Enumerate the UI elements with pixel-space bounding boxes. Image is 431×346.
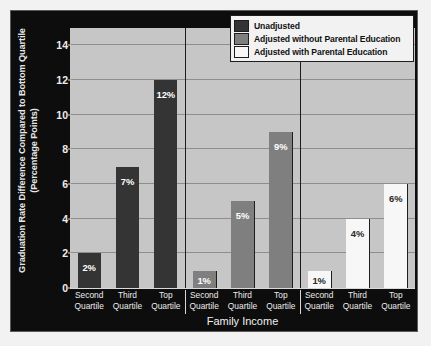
- y-axis-title: Graduation Rate Difference Compared to B…: [11, 11, 46, 289]
- x-axis-category-label: ThirdQuartile: [108, 290, 146, 311]
- legend-item: Unadjusted: [234, 19, 409, 32]
- x-axis-category-line1: Third: [118, 290, 137, 300]
- group-separator: [185, 28, 186, 288]
- bar-value-label: 2%: [72, 262, 107, 273]
- y-axis-tick-label: 0: [46, 282, 68, 294]
- y-axis-tick-label: 6: [46, 178, 68, 190]
- gridline: [70, 148, 415, 149]
- x-axis-group-separator: [300, 290, 301, 314]
- x-axis-category-labels: SecondQuartileThirdQuartileTopQuartileSe…: [70, 290, 415, 316]
- x-axis-category-label: TopQuartile: [262, 290, 300, 311]
- x-axis-line: [70, 288, 415, 289]
- bar-value-label: 9%: [263, 141, 298, 152]
- y-axis-tick-mark: [68, 253, 71, 254]
- legend-swatch: [234, 20, 249, 32]
- y-axis-tick-mark: [68, 80, 71, 81]
- bar-value-label: 1%: [302, 275, 337, 286]
- bar-value-label: 12%: [148, 89, 183, 100]
- x-axis-category-line2: Quartile: [262, 301, 300, 312]
- group-separator: [300, 28, 301, 288]
- x-axis-category-line2: Quartile: [223, 301, 261, 312]
- bar-value-label: 7%: [110, 176, 145, 187]
- y-axis-tick-mark: [68, 114, 71, 115]
- y-axis-title-line1: Graduation Rate Difference Compared to B…: [17, 28, 27, 273]
- x-axis-category-label: ThirdQuartile: [338, 290, 376, 311]
- x-axis-category-line1: Top: [389, 290, 403, 300]
- chart-legend: UnadjustedAdjusted without Parental Educ…: [230, 15, 414, 62]
- x-axis-category-label: SecondQuartile: [300, 290, 338, 311]
- bar: [269, 132, 293, 288]
- legend-label: Adjusted without Parental Education: [254, 34, 400, 44]
- legend-swatch: [234, 46, 249, 58]
- x-axis-category-label: TopQuartile: [147, 290, 185, 311]
- x-axis-category-line1: Second: [305, 290, 333, 300]
- y-axis-tick-label: 8: [46, 143, 68, 155]
- x-axis-category-label: SecondQuartile: [185, 290, 223, 311]
- y-axis-tick-label: 14: [46, 39, 68, 51]
- x-axis-category-label: TopQuartile: [377, 290, 415, 311]
- y-axis-tick-mark: [68, 45, 71, 46]
- x-axis-title: Family Income: [70, 315, 415, 327]
- x-axis-category-line1: Top: [159, 290, 173, 300]
- x-axis-category-line2: Quartile: [338, 301, 376, 312]
- x-axis-category-line1: Third: [348, 290, 367, 300]
- bar-value-label: 1%: [187, 275, 222, 286]
- x-axis-category-label: ThirdQuartile: [223, 290, 261, 311]
- chart-screenshot: Graduation Rate Difference Compared to B…: [0, 0, 431, 346]
- y-axis-tick-mark: [68, 218, 71, 219]
- x-axis-category-line2: Quartile: [147, 301, 185, 312]
- bar-value-label: 5%: [225, 210, 260, 221]
- x-axis-category-line2: Quartile: [108, 301, 146, 312]
- legend-swatch: [234, 33, 249, 45]
- y-axis-tick-mark: [68, 149, 71, 150]
- x-axis-category-line1: Second: [75, 290, 103, 300]
- bar-value-label: 6%: [378, 193, 413, 204]
- x-axis-category-line2: Quartile: [70, 301, 108, 312]
- y-axis-tick-label: 10: [46, 109, 68, 121]
- legend-label: Adjusted with Parental Education: [254, 47, 387, 57]
- x-axis-category-line2: Quartile: [185, 301, 223, 312]
- legend-item: Adjusted with Parental Education: [234, 45, 409, 58]
- legend-label: Unadjusted: [254, 21, 300, 31]
- y-axis-tick-mark: [68, 184, 71, 185]
- x-axis-group-separator: [185, 290, 186, 314]
- bar-value-label: 4%: [340, 228, 375, 239]
- y-axis-ticks: 02468101214: [44, 11, 68, 331]
- x-axis-category-label: SecondQuartile: [70, 290, 108, 311]
- x-axis-category-line1: Second: [190, 290, 218, 300]
- x-axis-category-line2: Quartile: [377, 301, 415, 312]
- y-axis-tick-label: 4: [46, 213, 68, 225]
- gridline: [70, 114, 415, 115]
- y-axis-tick-label: 12: [46, 74, 68, 86]
- legend-item: Adjusted without Parental Education: [234, 32, 409, 45]
- chart-figure: Graduation Rate Difference Compared to B…: [11, 11, 417, 331]
- x-axis-category-line1: Top: [274, 290, 288, 300]
- y-axis-tick-mark: [68, 288, 71, 289]
- x-axis-category-line1: Third: [233, 290, 252, 300]
- plot-area: 2%7%12%1%5%9%1%4%6%: [70, 28, 415, 288]
- bar: [154, 80, 177, 288]
- gridline: [70, 79, 415, 80]
- y-axis-tick-label: 2: [46, 247, 68, 259]
- y-axis-title-line2: (Percentage Points): [28, 28, 40, 273]
- x-axis-category-line2: Quartile: [300, 301, 338, 312]
